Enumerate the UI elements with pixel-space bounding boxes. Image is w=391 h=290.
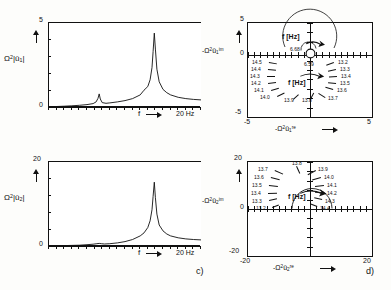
x-tick: [170, 107, 171, 110]
x-tick: [132, 246, 133, 249]
leader-line: [269, 185, 278, 187]
x-tick: [132, 107, 133, 110]
y-tick: [48, 178, 51, 179]
leader-line: [315, 185, 324, 187]
x-tick: [78, 107, 79, 110]
bottom-left-ylabel: Ω2|û2|: [4, 194, 24, 203]
leader-line: [268, 69, 276, 71]
frequency-label: 13.9: [318, 167, 328, 172]
top-left-x-arrow-icon: [146, 111, 163, 118]
top-left-ytick-top: 5: [39, 16, 43, 23]
x-tick: [94, 246, 95, 249]
leader-line: [308, 170, 316, 175]
leader-line: [296, 166, 300, 174]
leader-line: [275, 170, 284, 175]
top-left-ytick-bottom: 0: [39, 101, 43, 108]
frequency-label: 13.4: [341, 74, 351, 79]
frequency-label: 14.2: [251, 81, 261, 86]
frequency-label: 14.2: [327, 191, 337, 196]
x-tick: [63, 107, 64, 110]
leader-line: [329, 76, 337, 78]
x-tick: [48, 107, 49, 110]
x-tick: [124, 107, 125, 110]
frequency-label: 13.7: [328, 96, 338, 101]
x-tick: [101, 246, 102, 249]
top-left-plot-box: [48, 22, 201, 108]
frequency-label: 14.4: [251, 67, 261, 72]
y-tick: [48, 56, 51, 57]
bottom-right-frequency-labels: 13.713.613.513.413.313.213.813.914.014.1…: [200, 145, 391, 290]
leader-line: [328, 82, 336, 84]
top-left-response-curve: [49, 23, 201, 107]
panel-top-left: 5 0 Ω2|û1| f 20 Hz: [0, 0, 200, 145]
y-tick: [48, 73, 51, 74]
bottom-left-response-curve: [49, 162, 201, 246]
frequency-label: 13.3: [252, 199, 262, 204]
frequency-label: 14.1: [327, 183, 337, 188]
frequency-label: 13.5: [252, 183, 262, 188]
leader-line: [314, 197, 322, 200]
x-tick: [71, 246, 72, 249]
x-tick: [170, 246, 171, 249]
leader-line: [311, 203, 318, 207]
frequency-label: 14.3: [250, 74, 260, 79]
x-tick: [94, 107, 95, 110]
bottom-left-xend: 20 Hz: [176, 249, 194, 256]
leader-line: [318, 93, 325, 98]
x-tick: [147, 107, 148, 110]
y-tick: [48, 161, 51, 162]
top-left-ylabel: Ω2|û1|: [4, 55, 24, 64]
x-tick: [116, 107, 117, 110]
leader-line: [325, 87, 333, 90]
y-tick: [48, 22, 51, 23]
x-tick: [101, 107, 102, 110]
x-tick: [86, 107, 87, 110]
x-tick: [116, 246, 117, 249]
leader-line: [269, 198, 277, 201]
leader-line: [312, 177, 321, 180]
bottom-left-plot-box: [48, 161, 201, 247]
x-tick: [154, 246, 155, 249]
bottom-left-ytick-top: 20: [33, 155, 41, 162]
frequency-label: 14.0: [260, 95, 270, 100]
x-tick: [86, 246, 87, 249]
leader-line: [269, 62, 277, 64]
x-tick: [109, 246, 110, 249]
caption-d: d): [366, 266, 374, 276]
y-tick: [48, 229, 51, 230]
leader-line: [315, 192, 324, 193]
x-tick: [56, 107, 57, 110]
y-tick: [48, 195, 51, 196]
frequency-label: 14.4: [320, 206, 330, 211]
leader-line: [326, 62, 334, 66]
x-tick: [48, 246, 49, 249]
top-left-y-axis: [48, 22, 49, 107]
caption-c: c): [196, 266, 204, 276]
leader-line: [328, 69, 336, 72]
top-left-y-arrow-icon: [33, 30, 41, 44]
bottom-left-ytick-bottom: 0: [39, 240, 43, 247]
frequency-label: 13.6: [254, 175, 264, 180]
x-tick: [162, 246, 163, 249]
panel-bottom-right: 20 0 -20 -20 20 -Ω2û2im -Ω2û2re f [Hz] 1…: [200, 145, 391, 290]
leader-line: [267, 76, 275, 77]
x-tick: [124, 246, 125, 249]
leader-line: [310, 93, 314, 100]
x-tick: [63, 246, 64, 249]
leader-line: [268, 193, 277, 194]
frequency-label: 13.2: [338, 60, 348, 65]
panel-top-right: 5 0 -5 -5 5 -Ω2û1im -Ω2û1re f [Hz] f [Hz…: [200, 0, 391, 145]
frequency-label: 13.2: [256, 206, 266, 211]
x-tick: [71, 107, 72, 110]
top-left-xend: 20 Hz: [176, 110, 194, 117]
leader-line: [293, 94, 299, 99]
frequency-label: 13.3: [340, 67, 350, 72]
frequency-label: 14.0: [324, 175, 334, 180]
frequency-label: 13.6: [337, 88, 347, 93]
x-tick: [109, 107, 110, 110]
x-tick: [78, 246, 79, 249]
y-tick: [48, 90, 51, 91]
bottom-left-xlabel: f: [138, 249, 140, 257]
leader-line: [271, 88, 279, 91]
panel-bottom-left: 20 0 Ω2|û2| f 20 Hz: [0, 145, 200, 290]
